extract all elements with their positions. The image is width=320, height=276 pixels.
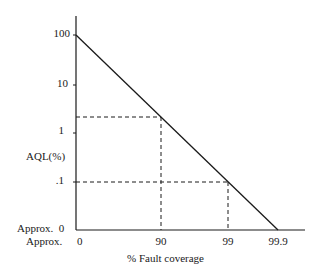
y-tick-label-01: .1 xyxy=(4,175,64,186)
x-tick-label-0: 0 xyxy=(77,236,83,247)
aql-curve xyxy=(76,35,278,230)
x-tick-label-0-prefix: Approx. xyxy=(26,236,62,247)
y-axis-title: AQL(%) xyxy=(26,151,65,162)
aql-chart: 100 10 1 .1 Approx. 0 AQL(%) Approx. 0 9… xyxy=(0,0,320,276)
y-tick-label-0: Approx. 0 xyxy=(17,223,64,234)
x-tick-label-90: 90 xyxy=(141,236,181,247)
x-tick-label-99: 99 xyxy=(208,236,248,247)
y-tick-label-10: 10 xyxy=(8,78,68,89)
y-tick-label-1: 1 xyxy=(4,125,64,136)
x-tick-label-999: 99.9 xyxy=(258,236,298,247)
y-tick-label-100: 100 xyxy=(10,28,70,39)
x-axis-title: % Fault coverage xyxy=(127,253,204,264)
